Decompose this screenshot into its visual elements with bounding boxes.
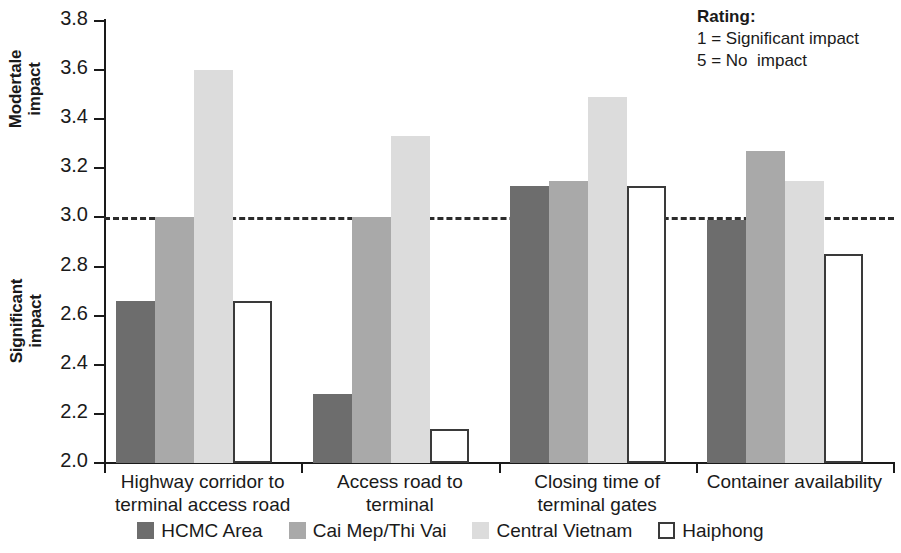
legend-label: Haiphong — [682, 521, 763, 540]
y-axis-tick-label: 3.4 — [28, 106, 88, 126]
y-axis-tick-mark — [94, 20, 104, 22]
bar — [707, 220, 746, 463]
y-axis-tick-mark — [94, 364, 104, 366]
y-axis-tick-label: 3.2 — [28, 155, 88, 175]
bar — [549, 181, 588, 463]
legend-label: Cai Mep/Thi Vai — [313, 521, 447, 540]
y-axis-tick-mark — [94, 462, 104, 464]
rating-annotation-line-1: 1 = Significant impact — [697, 28, 859, 50]
bar — [824, 254, 863, 463]
plot-area — [104, 21, 893, 463]
bar — [155, 217, 194, 463]
legend-item[interactable]: Cai Mep/Thi Vai — [289, 521, 447, 540]
legend-swatch-icon — [658, 522, 675, 539]
y-axis-tick-mark — [94, 216, 104, 218]
y-axis-tick-label: 2.2 — [28, 401, 88, 421]
y-axis-tick-label: 3.0 — [28, 204, 88, 224]
y-axis-tick-label: 3.6 — [28, 57, 88, 77]
legend-label: HCMC Area — [161, 521, 262, 540]
legend-swatch-icon — [289, 522, 306, 539]
bar — [233, 301, 272, 463]
chart-legend: HCMC AreaCai Mep/Thi VaiCentral VietnamH… — [0, 521, 901, 540]
rating-annotation-line-2: 5 = No impact — [697, 50, 859, 72]
y-axis-tick-label: 3.8 — [28, 8, 88, 28]
bar — [510, 186, 549, 463]
y-axis-tick-label: 2.4 — [28, 352, 88, 372]
y-axis-tick-mark — [94, 266, 104, 268]
rating-annotation: Rating: 1 = Significant impact 5 = No im… — [697, 6, 859, 72]
y-axis-tick-label: 2.0 — [28, 450, 88, 470]
y-axis-tick-mark — [94, 413, 104, 415]
bar — [430, 429, 469, 463]
x-axis-group-separator — [893, 462, 895, 473]
y-axis-tick-mark — [94, 118, 104, 120]
legend-label: Central Vietnam — [496, 521, 632, 540]
y-axis-tick-mark — [94, 69, 104, 71]
y-axis-tick-label: 2.6 — [28, 303, 88, 323]
legend-item[interactable]: Central Vietnam — [472, 521, 632, 540]
bar — [588, 97, 627, 463]
bar — [194, 70, 233, 463]
bar — [116, 301, 155, 463]
rating-annotation-title: Rating: — [697, 6, 859, 28]
bar — [785, 181, 824, 463]
bar — [391, 136, 430, 463]
legend-swatch-icon — [137, 522, 154, 539]
legend-item[interactable]: Haiphong — [658, 521, 763, 540]
chart-figure: Modertale impact Significant impact 3.83… — [0, 0, 901, 553]
bar — [746, 151, 785, 463]
y-axis-tick-label: 2.8 — [28, 254, 88, 274]
y-axis-tick-mark — [94, 167, 104, 169]
y-axis-tick-mark — [94, 315, 104, 317]
bar — [352, 217, 391, 463]
bar — [627, 186, 666, 463]
x-axis-category-label: Closing time of terminal gates — [499, 470, 696, 516]
bar — [313, 394, 352, 463]
y-axis-label-moderate: Modertale impact — [6, 31, 48, 147]
legend-item[interactable]: HCMC Area — [137, 521, 262, 540]
x-axis-category-label: Access road to terminal — [301, 470, 498, 516]
legend-swatch-icon — [472, 522, 489, 539]
x-axis-category-label: Container availability — [696, 470, 893, 493]
x-axis-category-label: Highway corridor to terminal access road — [104, 470, 301, 516]
